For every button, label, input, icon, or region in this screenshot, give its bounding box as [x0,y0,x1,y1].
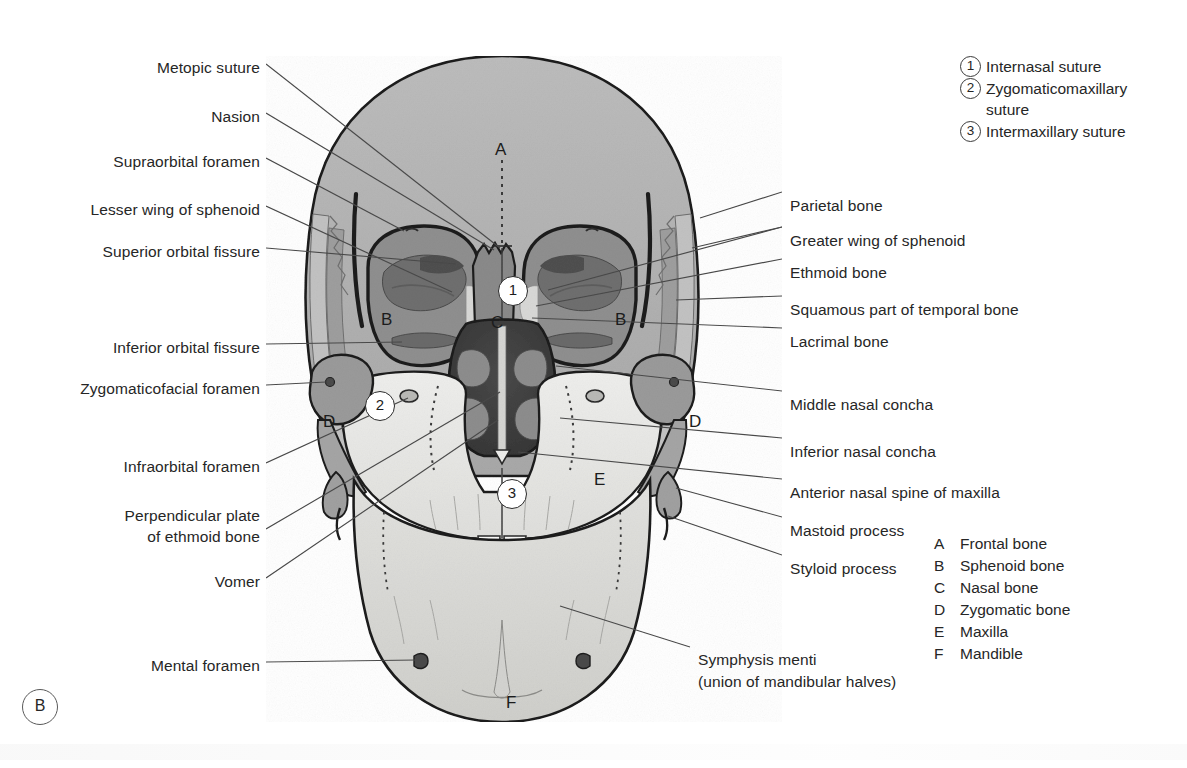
letter-key-letter: C [934,577,960,598]
label-left-3: Lesser wing of sphenoid [66,200,260,219]
label-left-5: Inferior orbital fissure [90,338,260,357]
panel-letter-badge: B [22,689,58,725]
label-left-4: Superior orbital fissure [82,242,260,261]
label-right-1: Greater wing of sphenoid [790,231,966,250]
letter-key-label: Frontal bone [960,533,1070,554]
letter-key-letter: D [934,599,960,620]
letter-key-row: FMandible [934,643,1070,664]
numbered-key-line: Intermaxillary suture [986,121,1127,142]
lettered-bone-key: AFrontal boneBSphenoid boneCNasal boneDZ… [934,533,1070,665]
numbered-key-line: suture [986,99,1127,120]
label-left-7: Infraorbital foramen [104,457,260,476]
circled-number-icon: 3 [960,121,986,142]
label-left-9: of ethmoid bone [125,527,260,546]
letter-key-row: BSphenoid bone [934,555,1070,576]
skull-marker-1: 1 [498,276,528,306]
label-right-5: Middle nasal concha [790,395,933,414]
label-left-10: Vomer [200,572,260,591]
skull-letter-d-4: D [323,412,335,432]
label-bottom-0: Symphysis menti [698,650,817,669]
numbered-key-line: Zygomaticomaxillary [986,78,1127,99]
letter-key-row: AFrontal bone [934,533,1070,554]
label-left-11: Mental foramen [138,656,260,675]
skull-marker-2: 2 [365,391,395,421]
label-right-2: Ethmoid bone [790,263,887,282]
skull-letter-b-1: B [381,310,392,330]
letter-key-letter: B [934,555,960,576]
label-right-4: Lacrimal bone [790,332,889,351]
letter-key-label: Zygomatic bone [960,599,1070,620]
numbered-key-label: Zygomaticomaxillarysuture [986,78,1127,120]
letter-key-label: Sphenoid bone [960,555,1070,576]
numbered-key-label: Internasal suture [986,56,1127,77]
skull-letter-c-3: C [491,313,503,333]
label-right-3: Squamous part of temporal bone [790,300,1019,319]
skull-letter-a-0: A [495,140,506,160]
label-right-0: Parietal bone [790,196,883,215]
skull-letter-f-7: F [506,693,516,713]
letter-key-letter: E [934,621,960,642]
label-right-8: Mastoid process [790,521,904,540]
label-left-8: Perpendicular plate [105,506,260,525]
letter-key-row: EMaxilla [934,621,1070,642]
skull-letter-e-6: E [594,470,605,490]
letter-key-letter: F [934,643,960,664]
letter-key-label: Mandible [960,643,1070,664]
numbered-key-row: 1Internasal suture [960,56,1127,77]
skull-letter-d-5: D [689,412,701,432]
numbered-key-line: Internasal suture [986,56,1127,77]
label-right-9: Styloid process [790,559,897,578]
numbered-key-label: Intermaxillary suture [986,121,1127,142]
scan-artifact-band [0,744,1187,760]
letter-key-row: DZygomatic bone [934,599,1070,620]
circled-number-icon: 1 [960,56,986,77]
label-left-2: Supraorbital foramen [92,152,260,171]
figure-canvas: Metopic sutureNasionSupraorbital foramen… [0,0,1187,768]
label-left-6: Zygomaticofacial foramen [26,379,260,398]
numbered-key-row: 3Intermaxillary suture [960,121,1127,142]
letter-key-label: Maxilla [960,621,1070,642]
circled-number-3: 3 [960,121,981,142]
numbered-suture-key: 1Internasal suture2Zygomaticomaxillarysu… [960,56,1127,143]
label-left-0: Metopic suture [138,58,260,77]
circled-number-1: 1 [960,56,981,77]
circled-number-icon: 2 [960,78,986,99]
letter-key-row: CNasal bone [934,577,1070,598]
label-right-7: Anterior nasal spine of maxilla [790,483,1000,502]
letter-key-letter: A [934,533,960,554]
label-bottom-1: (union of mandibular halves) [698,672,896,691]
letter-key-label: Nasal bone [960,577,1070,598]
numbered-key-row: 2Zygomaticomaxillarysuture [960,78,1127,120]
label-right-6: Inferior nasal concha [790,442,936,461]
circled-number-2: 2 [960,78,981,99]
skull-marker-3: 3 [497,479,527,509]
skull-letter-b-2: B [615,310,626,330]
label-left-1: Nasion [196,107,260,126]
